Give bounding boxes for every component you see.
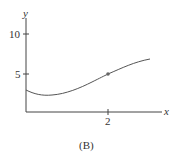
graph: y 10 5 x 2 (B) bbox=[0, 0, 178, 161]
figure-caption: (B) bbox=[79, 139, 94, 152]
x-tick-label-2: 2 bbox=[105, 115, 111, 127]
x-axis-label: x bbox=[163, 105, 169, 117]
y-tick-label-10: 10 bbox=[9, 28, 21, 40]
function-curve bbox=[26, 59, 150, 95]
y-axis-label: y bbox=[22, 7, 28, 19]
highlight-point bbox=[106, 72, 110, 76]
y-tick-label-5: 5 bbox=[15, 68, 21, 80]
